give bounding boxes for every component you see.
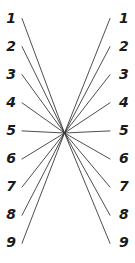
right-scale-label-4: 4 — [119, 95, 135, 109]
connector-line-left-1 — [22, 19, 65, 134]
left-scale-label-2: 2 — [0, 39, 16, 53]
connector-line-right-7 — [65, 133, 111, 187]
right-scale-label-9: 9 — [119, 235, 135, 249]
left-scale-label-7: 7 — [0, 179, 16, 193]
connector-line-left-4 — [22, 103, 65, 133]
connector-line-right-8 — [65, 133, 111, 215]
left-scale-label-4: 4 — [0, 95, 16, 109]
left-scale-label-9: 9 — [0, 235, 16, 249]
connector-line-left-7 — [22, 133, 65, 187]
left-scale-label-6: 6 — [0, 151, 16, 165]
left-scale-label-3: 3 — [0, 67, 16, 81]
connector-line-left-9 — [22, 133, 65, 243]
right-scale-label-2: 2 — [119, 39, 135, 53]
left-scale-label-5: 5 — [0, 123, 16, 137]
connector-line-left-2 — [22, 47, 65, 133]
left-scale-label-8: 8 — [0, 207, 16, 221]
right-scale-label-8: 8 — [119, 207, 135, 221]
connector-line-right-2 — [65, 47, 111, 133]
right-scale-label-7: 7 — [119, 179, 135, 193]
connector-line-right-4 — [65, 103, 111, 133]
converging-lines-svg — [0, 0, 135, 263]
connector-line-left-5 — [22, 131, 65, 133]
right-scale-label-5: 5 — [119, 123, 135, 137]
left-scale-label-1: 1 — [0, 11, 16, 25]
diagram-canvas: 123456789 123456789 — [0, 0, 135, 263]
connector-line-left-8 — [22, 133, 65, 215]
right-scale-label-3: 3 — [119, 67, 135, 81]
connector-line-right-3 — [65, 75, 111, 133]
connector-line-right-9 — [65, 133, 111, 243]
connector-line-left-3 — [22, 75, 65, 133]
lines-group — [22, 19, 110, 244]
connector-line-right-1 — [65, 19, 111, 134]
connector-line-right-5 — [65, 131, 111, 133]
right-scale-label-1: 1 — [119, 11, 135, 25]
right-scale-label-6: 6 — [119, 151, 135, 165]
